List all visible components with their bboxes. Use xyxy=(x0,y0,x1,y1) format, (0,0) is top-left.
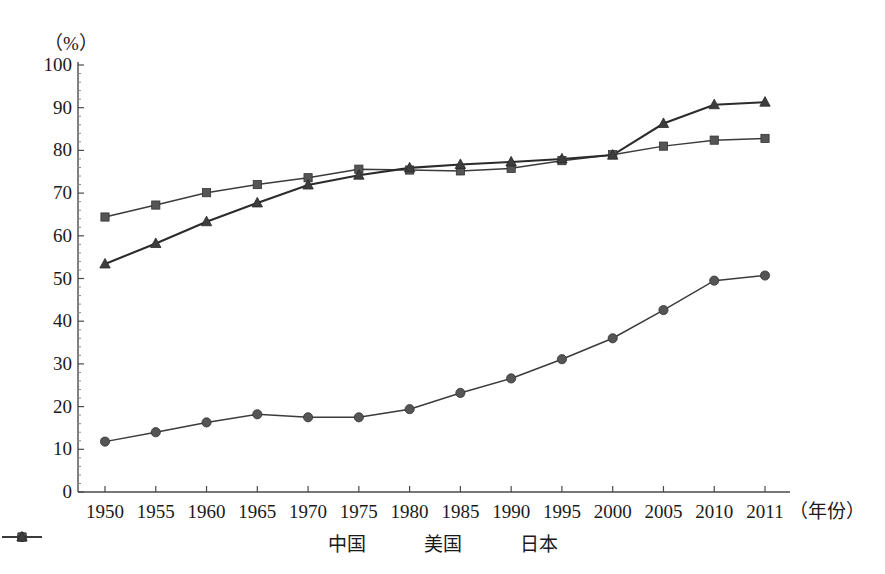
legend-marker-triangle-icon xyxy=(0,528,44,546)
line-chart: （%） 0102030405060708090100 1950195519601… xyxy=(0,0,885,574)
legend-label: 中国 xyxy=(328,535,366,554)
legend-item-中国[interactable]: 中国 xyxy=(328,535,366,554)
data-point-美国 xyxy=(101,213,109,221)
data-point-美国 xyxy=(659,142,667,150)
legend-label: 日本 xyxy=(520,535,558,554)
data-point-美国 xyxy=(253,180,261,188)
series-line-中国 xyxy=(105,276,765,442)
data-point-中国 xyxy=(710,276,719,285)
data-point-中国 xyxy=(253,410,262,419)
data-point-中国 xyxy=(760,271,769,280)
legend-item-日本[interactable]: 日本 xyxy=(520,535,558,554)
data-point-中国 xyxy=(557,355,566,364)
data-point-中国 xyxy=(659,305,668,314)
data-point-中国 xyxy=(100,437,109,446)
data-point-中国 xyxy=(507,374,516,383)
data-point-美国 xyxy=(710,136,718,144)
data-point-中国 xyxy=(202,418,211,427)
chart-legend: 中国美国日本 xyxy=(0,528,885,560)
data-point-中国 xyxy=(608,334,617,343)
data-point-中国 xyxy=(405,405,414,414)
data-point-中国 xyxy=(456,388,465,397)
data-point-中国 xyxy=(303,413,312,422)
legend-item-美国[interactable]: 美国 xyxy=(424,535,462,554)
data-point-中国 xyxy=(354,413,363,422)
data-point-中国 xyxy=(151,428,160,437)
data-point-美国 xyxy=(152,201,160,209)
data-point-美国 xyxy=(202,189,210,197)
legend-label: 美国 xyxy=(424,535,462,554)
plot-area xyxy=(0,0,885,574)
data-point-美国 xyxy=(761,134,769,142)
